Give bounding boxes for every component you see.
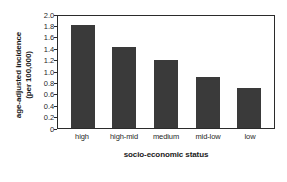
y-axis-tick: 2.0 [30, 10, 57, 20]
bar [112, 47, 136, 128]
bar-slot [187, 16, 229, 128]
plot-area [57, 15, 275, 129]
x-axis-tick-label: high [61, 132, 103, 146]
x-axis-tick-label: mid-low [187, 132, 229, 146]
y-axis-tick: 1.0 [30, 67, 57, 77]
bar [196, 77, 220, 128]
bar-slot [62, 16, 104, 128]
y-axis-tick: 0.8 [30, 78, 57, 88]
bar-slot [228, 16, 270, 128]
bar [237, 88, 261, 128]
y-axis-ticks: 2.01.81.61.41.21.00.80.60.40.20 [30, 15, 57, 129]
bar [71, 25, 95, 128]
y-axis-tick: 1.2 [30, 56, 57, 66]
y-axis-tick: 0 [30, 124, 57, 134]
x-axis-tick-label: high-mid [103, 132, 145, 146]
y-axis-tick: 1.8 [30, 21, 57, 31]
chart-figure: age-adjusted incidence (per 100,000) 2.0… [0, 0, 287, 182]
y-axis-tick: 0.4 [30, 101, 57, 111]
x-axis-ticks: highhigh-midmediummid-lowlow [57, 132, 275, 146]
y-axis-tick: 0.6 [30, 90, 57, 100]
bar-slot [104, 16, 146, 128]
bar-slot [145, 16, 187, 128]
y-axis-tick: 0.2 [30, 113, 57, 123]
y-axis-tick: 1.6 [30, 33, 57, 43]
x-axis-tick-label: low [229, 132, 271, 146]
x-axis-title: socio-economic status [57, 150, 275, 159]
bar [154, 60, 178, 128]
y-axis-tick: 1.4 [30, 44, 57, 54]
y-axis-title-line-1: age-adjusted incidence [14, 32, 24, 118]
bar-series [58, 16, 274, 128]
x-axis-tick-label: medium [145, 132, 187, 146]
